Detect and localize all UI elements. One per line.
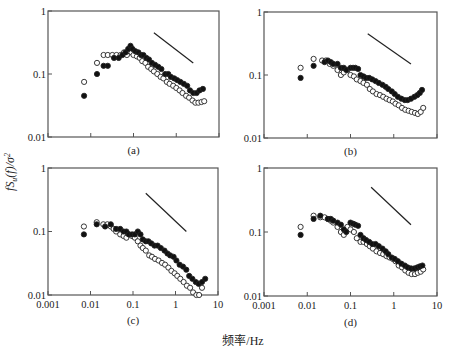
x-tick-label: 0.1 (344, 300, 357, 311)
y-tick-label: 0.1 (33, 69, 46, 80)
filled-circle-marker (105, 63, 110, 68)
y-tick-label: 0.01 (244, 133, 262, 144)
series-open (298, 56, 426, 116)
open-circle-marker (202, 99, 207, 104)
panel-a: 0.010.11(a) (28, 6, 219, 158)
x-tick-label: 0.01 (81, 299, 99, 310)
x-tick-label: 10 (213, 299, 224, 310)
y-tick-label: 1 (257, 163, 262, 174)
slope-reference-line (146, 193, 187, 231)
open-circle-marker (197, 292, 202, 297)
filled-circle-marker (184, 267, 189, 272)
x-axis-label: 频率/Hz (222, 333, 263, 348)
panel-label: (b) (344, 145, 357, 158)
filled-circle-marker (103, 224, 108, 229)
y-tick-label: 0.01 (244, 291, 262, 302)
series-filled (82, 43, 206, 98)
panel-label: (c) (127, 314, 140, 327)
filled-circle-marker (298, 75, 303, 80)
open-circle-marker (81, 224, 86, 229)
filled-circle-marker (356, 223, 361, 228)
open-circle-marker (298, 65, 303, 70)
open-circle-marker (421, 105, 426, 110)
filled-circle-marker (344, 229, 349, 234)
filled-circle-marker (311, 63, 316, 68)
open-circle-marker (82, 79, 87, 84)
open-circle-marker (143, 248, 148, 253)
panel-b: 0.010.11(b) (244, 7, 437, 159)
filled-circle-marker (203, 276, 208, 281)
filled-circle-marker (159, 66, 164, 71)
open-circle-marker (351, 229, 356, 234)
x-tick-label: 10 (432, 300, 443, 311)
open-circle-marker (311, 56, 316, 61)
slope-reference-line (368, 34, 411, 64)
filled-circle-marker (81, 232, 86, 237)
panel-label: (a) (127, 144, 140, 157)
filled-circle-marker (356, 66, 361, 71)
y-tick-label: 1 (41, 163, 46, 174)
x-tick-label: 0.001 (252, 300, 276, 311)
plot-frame (48, 11, 219, 137)
filled-circle-marker (311, 216, 316, 221)
filled-circle-marker (419, 87, 424, 92)
filled-circle-marker (94, 222, 99, 227)
filled-circle-marker (420, 263, 425, 268)
figure: 0.010.11(a)0.010.11(b)0.0010.010.11100.0… (0, 0, 450, 352)
panel-label: (d) (344, 316, 357, 329)
filled-circle-marker (200, 86, 205, 91)
panels: 0.010.11(a)0.010.11(b)0.0010.010.11100.0… (28, 6, 443, 330)
x-tick-label: 0.1 (126, 299, 139, 310)
slope-reference-line (154, 33, 193, 63)
panel-d: 0.0010.010.11100.010.11(d) (244, 163, 443, 330)
x-tick-label: 1 (391, 300, 396, 311)
slope-reference-line (371, 187, 411, 224)
filled-circle-marker (318, 213, 323, 218)
y-tick-label: 0.1 (249, 70, 262, 81)
filled-circle-marker (82, 93, 87, 98)
x-tick-label: 0.01 (298, 300, 316, 311)
y-tick-label: 1 (41, 6, 46, 17)
filled-circle-marker (298, 232, 303, 237)
y-tick-label: 1 (257, 7, 262, 18)
filled-circle-marker (94, 71, 99, 76)
y-tick-label: 0.01 (28, 132, 46, 143)
open-circle-marker (298, 224, 303, 229)
y-tick-label: 0.01 (28, 290, 46, 301)
panel-c: 0.0010.010.11100.010.11(c) (28, 163, 224, 328)
y-tick-label: 0.1 (249, 227, 262, 238)
x-tick-label: 0.001 (36, 299, 60, 310)
filled-circle-marker (108, 222, 113, 227)
y-axis-label: fSu(f)/σ2 (3, 153, 19, 191)
x-tick-label: 1 (173, 299, 178, 310)
filled-circle-marker (138, 232, 143, 237)
y-tick-label: 0.1 (33, 226, 46, 237)
open-circle-marker (94, 60, 99, 65)
filled-circle-marker (338, 222, 343, 227)
series-filled (81, 222, 207, 287)
